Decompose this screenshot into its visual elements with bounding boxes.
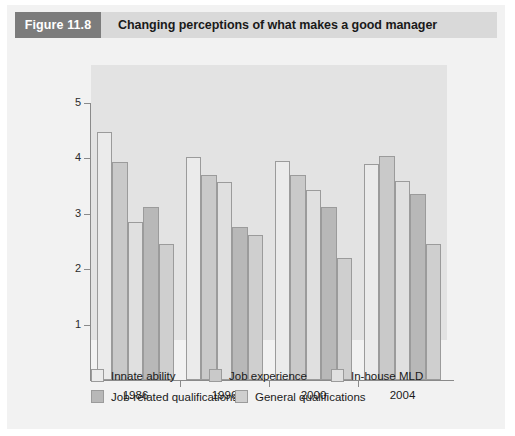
legend-item-job-experience[interactable]: Job experience: [209, 369, 307, 382]
bar-2000-job-experience: [290, 175, 306, 380]
figure-title: Changing perceptions of what makes a goo…: [101, 12, 497, 38]
legend-label: Innate ability: [111, 370, 176, 382]
bar-1996-general-qualifications: [248, 235, 264, 380]
bar-1986-innate-ability: [97, 132, 113, 380]
legend-row-2: Job-related qualificationsGeneral qualif…: [91, 386, 481, 407]
legend-item-innate-ability[interactable]: Innate ability: [91, 369, 176, 382]
bar-1986-job-related-qualifications: [143, 207, 159, 380]
chart-legend: Innate abilityJob experienceIn-house MLD…: [91, 365, 481, 407]
bar-2000-job-related-qualifications: [321, 207, 337, 380]
bar-1996-job-experience: [201, 175, 217, 380]
legend-swatch-icon: [209, 369, 222, 382]
bar-1996-innate-ability: [186, 157, 202, 380]
legend-label: In-house MLD: [351, 370, 423, 382]
bar-1986-job-experience: [112, 162, 128, 380]
legend-swatch-icon: [331, 369, 344, 382]
legend-swatch-icon: [91, 369, 104, 382]
bar-2004-general-qualifications: [426, 244, 442, 380]
figure-header: Figure 11.8 Changing perceptions of what…: [15, 12, 497, 38]
legend-swatch-icon: [235, 390, 248, 403]
bar-2000-innate-ability: [275, 161, 291, 380]
bar-2004-innate-ability: [364, 164, 380, 380]
legend-label: General qualifications: [255, 391, 366, 403]
bar-1986-in-house-mld: [128, 222, 144, 380]
legend-swatch-icon: [91, 390, 104, 403]
bars-layer: [7, 43, 505, 380]
bar-1986-general-qualifications: [159, 244, 175, 380]
legend-row-1: Innate abilityJob experienceIn-house MLD: [91, 365, 481, 386]
bar-1996-job-related-qualifications: [232, 227, 248, 380]
figure-card: Figure 11.8 Changing perceptions of what…: [7, 5, 505, 429]
legend-item-in-house-mld[interactable]: In-house MLD: [331, 369, 423, 382]
bar-2004-job-related-qualifications: [410, 194, 426, 380]
bar-2004-job-experience: [379, 156, 395, 380]
bar-1996-in-house-mld: [217, 182, 233, 380]
legend-label: Job experience: [229, 370, 307, 382]
legend-item-general-qualifications[interactable]: General qualifications: [235, 390, 366, 403]
bar-2004-in-house-mld: [395, 181, 411, 380]
bar-chart: 12345 1986199620002004 Innate abilityJob…: [7, 43, 505, 429]
bar-2000-general-qualifications: [337, 258, 353, 380]
legend-label: Job-related qualifications: [111, 391, 238, 403]
figure-number-badge: Figure 11.8: [15, 12, 101, 38]
legend-item-job-related-qualifications[interactable]: Job-related qualifications: [91, 390, 238, 403]
bar-2000-in-house-mld: [306, 190, 322, 380]
